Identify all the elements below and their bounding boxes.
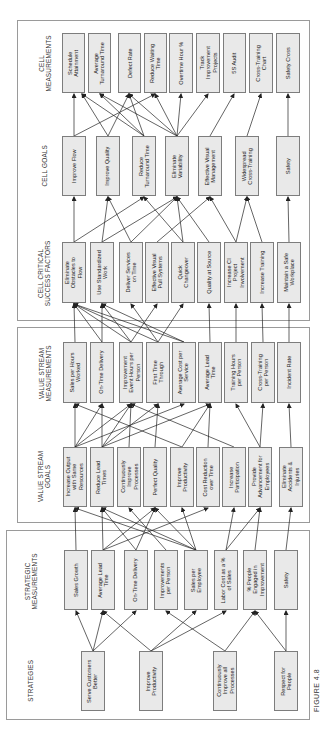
cell-goal-effective-visual-management: Effective Visual Management [198, 136, 222, 196]
cell-csf-quick-changeover: Quick Changeover [171, 242, 195, 303]
cell-measurement-track-improvement-projects: Track Improvement Projects [196, 33, 220, 93]
strategic-measurement-people-engaged: % People Engaged in Improvement [243, 550, 267, 610]
header-strategic-measurements: STRATEGIC MEASUREMENTS [18, 548, 44, 614]
strategic-measurement-on-time-delivery: On-Time Delivery [124, 550, 148, 610]
cell-csf-eliminate-obstacles-to-flow: Eliminate Obstacles to Flow [62, 242, 86, 303]
vs-measurement-cross-training-per-person: Cross-Training per Person [251, 342, 275, 403]
cell-measurement-average-turnaround-time: Average Turnaround Time [88, 33, 111, 93]
cell-measurement-cross-training-chart: Cross-Training Chart [249, 33, 273, 93]
cell-goal-improve-quality: Improve Quality [96, 136, 120, 196]
cell-goal-safety: Safety [276, 136, 300, 196]
diagram-canvas: CELL MEASUREMENTS CELL GOALS CELL CRITIC… [0, 0, 329, 742]
strategic-measurement-sales-per-employee: Sales per Employee [184, 550, 208, 610]
cell-goal-eliminate-variability: Eliminate Variability [165, 136, 189, 196]
cell-csf-increase-training: Increase Training [250, 242, 274, 303]
vs-measurement-average-lead-time: Average Lead Time [198, 342, 222, 403]
vs-goal-improve-productivity: Improve Productivity [170, 447, 194, 507]
strategic-measurement-labor-cost: Labor Cost as a % of Sales [214, 550, 238, 610]
cell-measurement-schedule-attainment: Schedule Attainment [62, 33, 85, 93]
cell-measurement-overtime-hour: Overtime Hour % [169, 33, 193, 93]
vs-goal-continuously-improve-processes: Continuously Improve Processes [117, 447, 141, 507]
vs-measurement-sales-per-hours-worked: Sales per Hours Worked [63, 342, 87, 403]
vs-measurement-improvement-event-hours: Improvement Event Hours per Person [119, 342, 143, 403]
cell-csf-quality-at-source: Quality at Source [197, 242, 221, 303]
cell-csf-effective-visual-pull-systems: Effective Visual Pull Systems [145, 242, 169, 303]
vs-goal-reduce-lead-times: Reduce Lead Times [90, 447, 114, 507]
header-cell-csf: CELL CRITICAL SUCCESS FACTORS [32, 240, 58, 306]
strategic-measurement-sales-growth: Sales Growth [64, 550, 88, 610]
cell-goal-improve-flow: Improve Flow [62, 136, 86, 196]
strategic-measurement-safety: Safety [274, 550, 298, 610]
cell-goal-reduce-turnaround-time: Reduce Turnaround Time [132, 136, 156, 196]
cell-csf-use-standardized-work: Use Standardized Work [90, 242, 114, 303]
cell-measurement-defect-rate: Defect Rate [118, 33, 141, 93]
cell-measurement-safety-cross: Safety Cross [276, 33, 300, 93]
vs-goal-eliminate-accidents: Eliminate Accidents & Injuries [279, 447, 303, 507]
vs-measurement-training-hours-per-person: Training Hours per Person [224, 342, 248, 403]
cell-measurement-reduce-waiting-time: Reduce Waiting Time [144, 33, 167, 93]
header-vs-goals: VALUE STREAM GOALS [32, 445, 58, 507]
cell-goal-widespread-cross-training: Widespread Cross-Training [235, 136, 259, 196]
header-strategies: STRATEGIES [18, 650, 44, 712]
strategic-measurement-improvements-per-person: Improvements per Person [154, 550, 178, 610]
strategy-improve-productivity: Improve Productivity [139, 651, 163, 711]
vs-measurement-incident-rate: Incident Rate [277, 342, 301, 403]
vs-measurement-on-time-delivery: On-Time Delivery [90, 342, 114, 403]
header-cell-goals: CELL GOALS [32, 135, 58, 197]
vs-measurement-average-cost-per-service: Average Cost per Service [172, 342, 196, 403]
figure-caption: FIGURE 4.8 [309, 660, 325, 720]
vs-goal-increase-output: Increase Output with Same Resources [63, 447, 87, 507]
vs-goal-perfect-quality: Perfect Quality [143, 447, 167, 507]
strategic-measurement-average-lead-time: Average Lead Time [91, 550, 115, 610]
cell-measurement-5s-audit: 5S Audit [223, 33, 246, 93]
vs-goal-increase-participation: Increase Participation [222, 447, 246, 507]
header-cell-measurements: CELL MEASUREMENTS [32, 30, 58, 96]
strategy-serve-customers-better: Serve Customers Better [81, 651, 105, 711]
strategy-respect-for-people: Respect for People [274, 651, 298, 711]
strategy-continuously-improve-all-processes: Continuously Improve all Processes [213, 651, 237, 711]
cell-csf-deliver-services-on-time: Deliver Services on Time [119, 242, 143, 303]
cell-csf-maintain-safe-workplace: Maintain a Safe Workplace [277, 242, 301, 303]
vs-measurement-first-time-through: First Time Through [146, 342, 170, 403]
vs-goal-cost-reduction-over-time: Cost Reduction over Time [196, 447, 220, 507]
header-vs-measurements: VALUE STREAM MEASUREMENTS [32, 340, 58, 406]
vs-goal-provide-advancement: Provide Advancement for Employees [248, 447, 272, 507]
cell-csf-increase-ci-project-involvement: Increase CI Project Involvement [224, 242, 248, 303]
